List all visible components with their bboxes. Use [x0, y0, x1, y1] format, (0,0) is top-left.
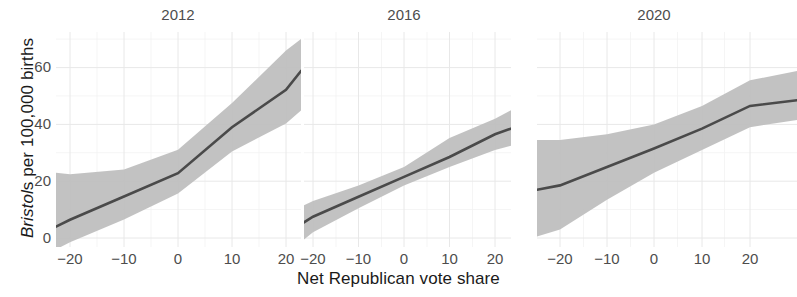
- x-axis-title: Net Republican vote share: [0, 269, 797, 289]
- facet-strip-2016: 2016: [344, 6, 464, 23]
- trend-line-2016: [304, 129, 511, 223]
- x-tick-label-2016-neg20: −20: [293, 250, 333, 267]
- panel-2016: [304, 32, 511, 247]
- x-tick-label-2020-10: 10: [682, 250, 722, 267]
- x-tick-label-2012-10: 10: [212, 250, 252, 267]
- facet-strip-2020: 2020: [594, 6, 714, 23]
- x-tick-label-2012-0: 0: [158, 250, 198, 267]
- panel-2012: [56, 32, 301, 247]
- faceted-regression-figure: Bristols per 100,000 births 60 40 20 0 2…: [0, 0, 797, 297]
- y-tick-label-0: 0: [17, 229, 51, 246]
- y-axis-title: Bristols per 100,000 births: [18, 13, 38, 263]
- y-tick-label-20: 20: [17, 172, 51, 189]
- facet-strip-2012: 2012: [118, 6, 238, 23]
- x-tick-label-2020-neg10: −10: [587, 250, 627, 267]
- x-tick-label-2020-0: 0: [634, 250, 674, 267]
- y-tick-label-60: 60: [17, 58, 51, 75]
- y-tick-label-40: 40: [17, 115, 51, 132]
- x-tick-label-2016-10: 10: [430, 250, 470, 267]
- x-tick-label-2016-0: 0: [384, 250, 424, 267]
- x-tick-label-2012-neg20: −20: [50, 250, 90, 267]
- x-tick-label-2016-neg10: −10: [339, 250, 379, 267]
- panel-2020: [537, 32, 797, 247]
- x-tick-label-2020-20: 20: [730, 250, 770, 267]
- x-tick-label-2012-neg10: −10: [104, 250, 144, 267]
- x-tick-label-2020-neg20: −20: [540, 250, 580, 267]
- x-tick-label-2016-20: 20: [475, 250, 515, 267]
